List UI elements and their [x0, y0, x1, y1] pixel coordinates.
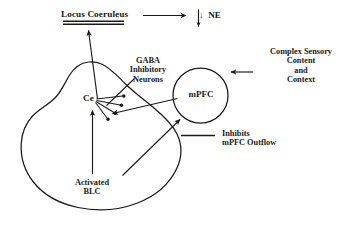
label-locus-coeruleus: Locus Coeruleus [61, 9, 128, 19]
label-ne: ↓ NE [199, 10, 221, 20]
label-complex-sensory-content-and-context: Complex Sensory Content and Context [255, 47, 347, 84]
diagram-canvas: Locus Coeruleus ↓ NE GABA Inhibitory Neu… [0, 0, 353, 233]
arrow-ce-to-locus-coeruleus [89, 31, 98, 100]
gaba-terminal-group [96, 94, 126, 121]
label-gaba-inhibitory-neurons: GABA Inhibitory Neurons [118, 56, 178, 84]
diagram-vector-layer [0, 0, 353, 233]
gaba-terminal-line-1 [97, 96, 123, 99]
gaba-terminal-dot-4 [106, 117, 110, 121]
gaba-terminal-dot-1 [122, 94, 126, 98]
gaba-terminal-dot-2 [120, 104, 124, 108]
arrow-blc-to-mpfc [123, 120, 181, 176]
label-activated-blc: Activated BLC [57, 178, 127, 197]
label-ce-central-nucleus: Ce [83, 93, 94, 103]
gaba-terminal-dot-3 [114, 112, 118, 116]
label-mpfc: mPFC [183, 89, 219, 99]
label-inhibits-mpfc-outflow: Inhibits mPFC Outflow [222, 129, 326, 148]
